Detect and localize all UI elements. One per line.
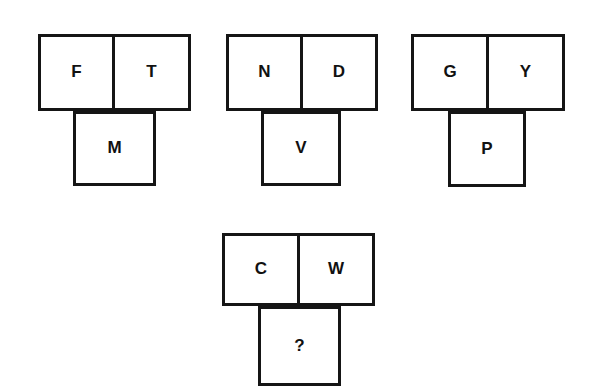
figure-2-cell-top-right: D [300,34,378,111]
figure-1-label-bottom: M [107,139,121,156]
figure-4-label-top-right: W [328,260,344,277]
figure-1-cell-top-left: F [38,34,115,111]
figure-4-label-bottom-answer: ? [294,337,304,354]
figure-1-cell-bottom: M [73,111,156,186]
figure-3-cell-top-left: G [411,34,489,111]
figure-2-label-bottom: V [295,139,306,156]
figure-3-top-row: G Y [411,34,565,111]
figure-2-cell-bottom: V [261,111,341,186]
figure-1-cell-top-right: T [112,34,191,111]
figure-3-label-top-left: G [443,63,456,80]
figure-2-top-row: N D [226,34,378,111]
figure-4-top-row: C W [222,233,375,306]
figure-3-cell-top-right: Y [486,34,565,111]
figure-4-cell-top-left: C [222,233,300,306]
figure-1-top-row: F T [38,34,191,111]
figure-4-label-top-left: C [255,260,267,277]
figure-1-label-top-right: T [146,63,156,80]
figure-4-cell-bottom-answer: ? [258,306,341,386]
figure-2-cell-top-left: N [226,34,303,111]
figure-3-label-bottom: P [481,140,492,157]
figure-3-cell-bottom: P [448,111,526,187]
figure-3-label-top-right: Y [520,63,531,80]
figure-2-label-top-right: D [333,63,345,80]
figure-4-cell-top-right: W [297,233,375,306]
figure-1-label-top-left: F [71,63,81,80]
figure-2-label-top-left: N [258,63,270,80]
